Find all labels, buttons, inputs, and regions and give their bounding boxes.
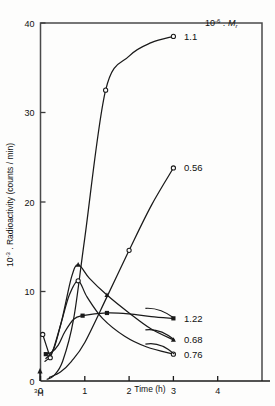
data-point-marker bbox=[76, 262, 81, 267]
series-curve-1.22 bbox=[46, 313, 174, 354]
x-tick-label: 4 bbox=[215, 386, 220, 396]
series-curve-0.68 bbox=[46, 265, 174, 359]
label-leader-lines bbox=[145, 308, 174, 354]
y-tick-label: 40 bbox=[24, 19, 34, 29]
radioactivity-time-chart: 01020304001234 1.10.561.220.680.76 10-3 … bbox=[0, 0, 275, 406]
y-tick-label: 20 bbox=[24, 198, 34, 208]
legend-header: 10-6 . Mr bbox=[205, 18, 238, 30]
series-label-0.56: 0.56 bbox=[184, 162, 203, 173]
y-tick-label: 30 bbox=[24, 108, 34, 118]
y-tick-label: 10 bbox=[24, 287, 34, 297]
data-point-marker bbox=[171, 166, 175, 170]
series-label-1.22: 1.22 bbox=[184, 313, 203, 324]
figure-container: 01020304001234 1.10.561.220.680.76 10-3 … bbox=[0, 0, 275, 406]
tracer-origin-marker: 3H bbox=[34, 368, 44, 398]
series-labels: 1.10.561.220.680.76 bbox=[184, 31, 203, 360]
y-axis-title: 10-3 . Radioactivity (counts / min) bbox=[5, 143, 15, 267]
data-point-marker bbox=[80, 314, 84, 318]
data-point-marker bbox=[44, 352, 48, 356]
data-curves bbox=[43, 36, 174, 379]
data-point-marker bbox=[127, 248, 131, 252]
x-tick-label: 2 bbox=[127, 386, 132, 396]
series-curve-1.1 bbox=[47, 36, 173, 379]
x-tick-label: 1 bbox=[82, 386, 87, 396]
x-tick-label: 3 bbox=[171, 386, 176, 396]
series-label-1.1: 1.1 bbox=[184, 31, 197, 42]
data-point-marker bbox=[171, 34, 175, 38]
x-axis-title: Time (h) bbox=[134, 384, 165, 394]
data-point-marker bbox=[105, 311, 109, 315]
data-point-marker bbox=[76, 279, 80, 283]
leader-line bbox=[145, 344, 174, 355]
data-point-marker bbox=[41, 332, 45, 336]
series-label-0.68: 0.68 bbox=[184, 334, 203, 345]
y-tick-label: 0 bbox=[29, 377, 34, 387]
data-point-marker bbox=[48, 356, 52, 360]
plot-frame bbox=[41, 23, 271, 381]
series-label-0.76: 0.76 bbox=[184, 349, 203, 360]
tracer-label: 3H bbox=[34, 388, 44, 399]
data-point-marker bbox=[104, 88, 108, 92]
